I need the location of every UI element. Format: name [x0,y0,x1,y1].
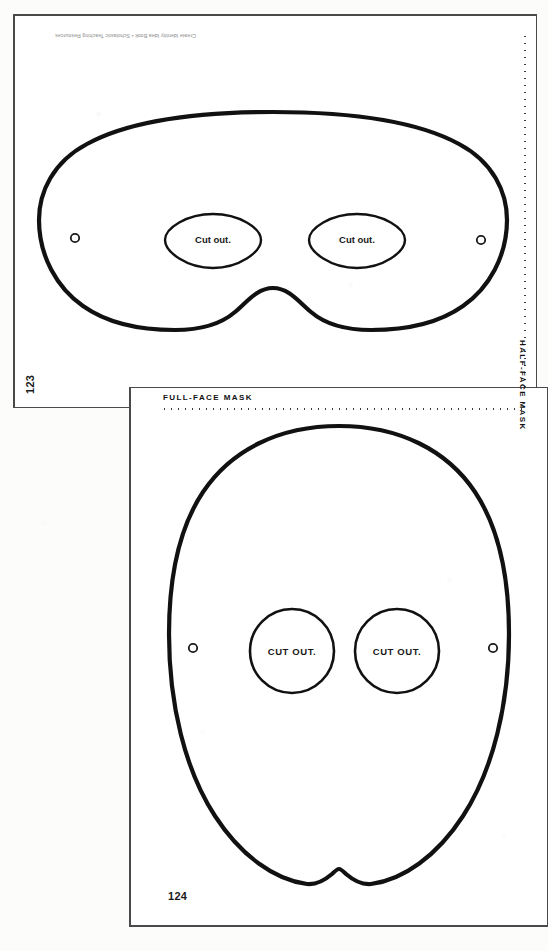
full-mask-tie-hole-left [189,644,197,652]
sheet-full-face-mask: CUT OUT. CUT OUT. [129,387,548,927]
half-mask-outline [39,112,507,330]
half-mask-tie-hole-left [71,234,79,242]
half-mask-cut-label-left: Cut out. [195,234,231,245]
half-face-mask-artwork: Cut out. Cut out. [15,16,537,408]
dotted-guide-line-vertical [524,33,526,388]
half-face-mask-label: HALF-FACE MASK [518,340,527,431]
full-mask-cut-label-left: CUT OUT. [268,646,317,657]
full-mask-outline [169,426,509,884]
credit-line: Create Identity Idea Book • Scholastic T… [26,33,196,39]
sheet-half-face-mask: Cut out. Cut out. [13,14,537,408]
full-mask-cut-label-right: CUT OUT. [373,646,422,657]
full-face-mask-artwork: CUT OUT. CUT OUT. [131,388,548,926]
half-mask-cut-label-right: Cut out. [339,234,375,245]
page-number-123: 123 [24,375,36,394]
full-mask-tie-hole-right [489,644,497,652]
full-face-mask-label: FULL-FACE MASK [163,393,253,402]
page-number-124: 124 [168,890,187,902]
dotted-guide-line-horizontal [161,408,528,410]
half-mask-tie-hole-right [477,236,485,244]
